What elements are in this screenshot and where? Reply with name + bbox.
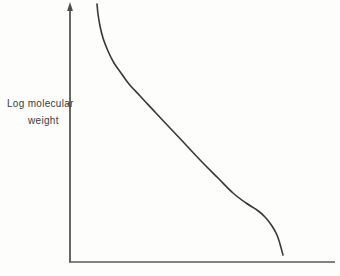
chart-canvas (0, 0, 340, 276)
chart-figure: Log molecular weight (0, 0, 340, 276)
y-axis-label-line2: weight (28, 115, 59, 127)
y-axis-label-line1: Log molecular (7, 98, 74, 110)
y-axis-arrowhead-icon (67, 2, 73, 11)
molecular-weight-curve (97, 4, 283, 255)
